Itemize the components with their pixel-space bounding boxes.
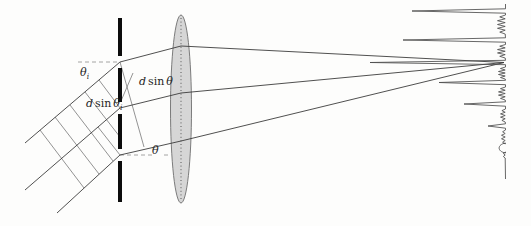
label-theta: θ — [152, 144, 159, 157]
incident-ray-middle — [25, 108, 120, 190]
incident-ray-bottom — [57, 155, 120, 213]
intensity-spectrum — [370, 4, 506, 179]
labels: θi dsinθ dsinθi θ — [80, 66, 173, 157]
wavefront-line — [40, 130, 84, 188]
incident-beam — [25, 62, 120, 213]
label-d-sin-theta-i: dsinθi — [86, 97, 123, 112]
label-theta-i: θi — [80, 66, 90, 81]
wavefront-slit-bottom — [98, 127, 120, 155]
label-leader-line — [121, 73, 133, 101]
grating-bar — [118, 161, 122, 202]
spectrum-curve — [370, 4, 506, 179]
lens — [171, 15, 192, 203]
label-d-sin-theta: dsinθ — [139, 75, 173, 88]
figure-canvas: θi dsinθ dsinθi θ — [0, 0, 531, 226]
grating-bar — [118, 114, 122, 149]
diffraction-grating-figure: θi dsinθ dsinθi θ — [0, 0, 531, 226]
grating-bar — [118, 18, 122, 56]
